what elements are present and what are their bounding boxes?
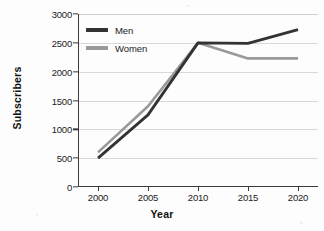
legend-label-men: Men xyxy=(115,25,133,36)
legend: Men Women xyxy=(86,24,147,54)
y-tick-label-1500: 1500 xyxy=(34,95,72,106)
y-tick-label-500: 500 xyxy=(34,153,72,164)
y-tick-label-2000: 2000 xyxy=(34,66,72,77)
y-tick-label-1000: 1000 xyxy=(34,124,72,135)
legend-item-women: Women xyxy=(86,42,147,54)
scan-speck xyxy=(300,222,303,224)
gridline-3000 xyxy=(79,14,318,15)
y-tick-label-0: 0 xyxy=(34,182,72,193)
y-tick-label-2500: 2500 xyxy=(34,37,72,48)
legend-swatch-women xyxy=(86,46,108,49)
gridline-500 xyxy=(79,158,318,159)
x-tick-mark-2000 xyxy=(98,187,99,191)
scan-speck xyxy=(186,5,189,7)
gridline-1500 xyxy=(79,101,318,102)
gridline-1000 xyxy=(79,129,318,130)
x-tick-mark-2005 xyxy=(148,187,149,191)
x-tick-mark-2020 xyxy=(298,187,299,191)
legend-label-women: Women xyxy=(115,43,147,54)
x-tick-label-2010: 2010 xyxy=(188,192,208,203)
x-tick-label-2000: 2000 xyxy=(88,192,108,203)
x-tick-label-2015: 2015 xyxy=(238,192,258,203)
y-axis-title: Subscribers xyxy=(11,67,23,130)
legend-swatch-men xyxy=(86,28,108,32)
x-tick-label-2005: 2005 xyxy=(138,192,158,203)
line-chart: Subscribers 050010001500200025003000 200… xyxy=(0,0,324,231)
x-tick-mark-2015 xyxy=(248,187,249,191)
legend-item-men: Men xyxy=(86,24,147,36)
x-tick-mark-2010 xyxy=(198,187,199,191)
x-axis-title: Year xyxy=(0,208,324,220)
x-tick-label-2020: 2020 xyxy=(288,192,308,203)
y-tick-label-3000: 3000 xyxy=(34,9,72,20)
gridline-2000 xyxy=(79,72,318,73)
